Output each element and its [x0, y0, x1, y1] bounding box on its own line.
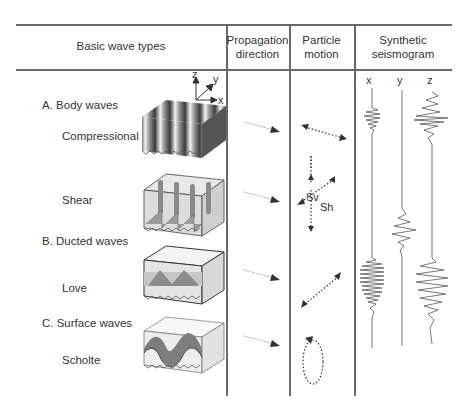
header-line1: Propagation — [226, 33, 289, 47]
love-wave-block — [142, 244, 226, 308]
shear-wave-block — [142, 172, 226, 240]
axis-z-label: z — [192, 68, 198, 80]
header-line1: Synthetic — [354, 33, 452, 47]
header-propagation-direction: Propagation direction — [226, 33, 289, 61]
seismogram-z-label: z — [427, 74, 433, 86]
particle-motion-compressional — [289, 70, 354, 396]
table-top-rule — [16, 24, 452, 26]
header-basic-wave-types: Basic wave types — [16, 39, 226, 53]
row-label-love: Love — [62, 282, 87, 294]
group-title-surface-waves: C. Surface waves — [42, 317, 132, 329]
row-label-shear: Shear — [62, 194, 93, 206]
sh-label: Sh — [320, 201, 333, 213]
header-line2: seismogram — [354, 47, 452, 61]
header-particle-motion: Particle motion — [289, 33, 354, 61]
compressional-wave-block — [140, 98, 226, 163]
axis-y-label: y — [213, 73, 219, 85]
seismogram-y-label: y — [397, 74, 403, 86]
sv-label: Sv — [306, 191, 319, 203]
row-label-scholte: Scholte — [62, 354, 100, 366]
row-label-compressional: Compressional — [62, 130, 139, 142]
group-title-body-waves: A. Body waves — [42, 99, 118, 111]
synthetic-seismogram-traces — [354, 88, 452, 398]
header-line2: direction — [226, 47, 289, 61]
header-line2: motion — [289, 47, 354, 61]
seismogram-x-label: x — [366, 74, 372, 86]
propagation-arrows — [226, 70, 289, 396]
header-label: Basic wave types — [77, 40, 166, 52]
header-synthetic-seismogram: Synthetic seismogram — [354, 33, 452, 61]
group-title-ducted-waves: B. Ducted waves — [42, 235, 128, 247]
scholte-wave-block — [142, 315, 226, 379]
header-line1: Particle — [289, 33, 354, 47]
